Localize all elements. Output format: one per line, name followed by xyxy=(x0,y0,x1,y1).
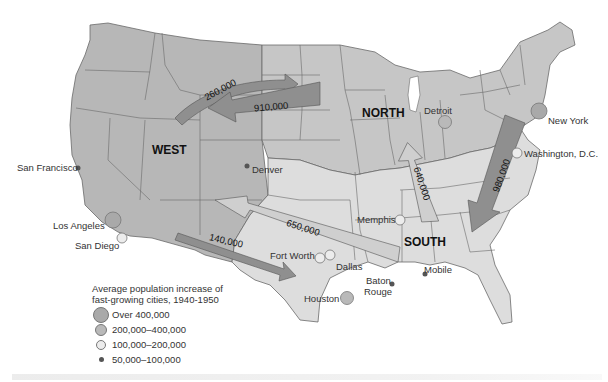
legend-label: 200,000–400,000 xyxy=(112,324,186,335)
city-label-baton-rouge-1: Baton xyxy=(366,275,391,286)
region-label-north: NORTH xyxy=(362,106,405,120)
city-label-denver: Denver xyxy=(252,164,283,175)
city-label-san-francisco: San Francisco xyxy=(17,162,78,173)
city-marker-detroit xyxy=(439,116,452,129)
dot-icon xyxy=(99,357,104,362)
city-marker-washington xyxy=(512,148,522,158)
legend-item-over-400000: Over 400,000 xyxy=(92,307,292,322)
legend-label: 100,000–200,000 xyxy=(112,339,186,350)
cut-off-caption xyxy=(12,374,602,380)
city-label-detroit: Detroit xyxy=(424,105,452,116)
city-marker-new-york xyxy=(531,103,547,119)
city-label-new-york: New York xyxy=(548,115,588,126)
city-label-washington: Washington, D.C. xyxy=(524,148,598,159)
legend-title-line-2: fast-growing cities, 1940-1950 xyxy=(92,294,292,305)
city-marker-memphis xyxy=(395,215,405,225)
legend-item-50000-100000: 50,000–100,000 xyxy=(92,352,292,367)
legend-title-line-1: Average population increase of xyxy=(92,283,292,294)
city-marker-houston xyxy=(341,292,354,305)
city-label-memphis: Memphis xyxy=(357,214,396,225)
legend-item-200000-400000: 200,000–400,000 xyxy=(92,322,292,337)
city-marker-denver xyxy=(245,164,250,169)
city-label-houston: Houston xyxy=(304,293,339,304)
city-label-san-diego: San Diego xyxy=(75,240,119,251)
legend-label: 50,000–100,000 xyxy=(112,354,181,365)
medium-circle-icon xyxy=(95,324,107,336)
city-label-fort-worth: Fort Worth xyxy=(270,250,315,261)
city-label-baton-rouge-2: Rouge xyxy=(364,286,392,297)
map-legend: Average population increase of fast-grow… xyxy=(92,283,292,367)
city-label-los-angeles: Los Angeles xyxy=(53,220,105,231)
small-circle-icon xyxy=(96,340,106,350)
city-marker-fort-worth xyxy=(315,253,325,263)
city-marker-los-angeles xyxy=(105,212,121,228)
large-circle-icon xyxy=(93,307,109,323)
city-label-dallas: Dallas xyxy=(336,261,362,272)
city-marker-dallas xyxy=(325,250,335,260)
legend-label: Over 400,000 xyxy=(112,309,170,320)
region-label-south: SOUTH xyxy=(404,235,446,249)
legend-item-100000-200000: 100,000–200,000 xyxy=(92,337,292,352)
region-label-west: WEST xyxy=(152,143,187,157)
city-label-mobile: Mobile xyxy=(424,264,452,275)
